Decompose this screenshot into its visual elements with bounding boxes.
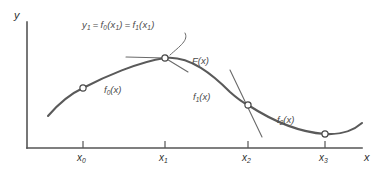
leader-line-node-value [170, 33, 186, 55]
annotation-eq-2: = [123, 19, 133, 30]
node-value-annotation: y1=f0(x1)=f1(x1) [82, 20, 155, 30]
segment-label-f1-sub: 1 [196, 96, 200, 103]
y-axis-label: y [14, 10, 20, 21]
tick-label-x0: x0 [77, 153, 86, 163]
tick-label-x3-sub: 3 [324, 157, 328, 164]
composite-function-label: F(x) [192, 56, 209, 66]
annotation-f1-sub: 1 [135, 24, 139, 31]
segment-label-f2-sub: 2 [280, 119, 284, 126]
tick-label-x1-sub: 1 [164, 157, 168, 164]
annotation-eq-1: = [91, 19, 101, 30]
segment-label-f1: f1(x) [193, 92, 210, 102]
x-axis-ticks [83, 141, 325, 148]
segment-label-f0-arg: (x) [110, 84, 121, 95]
annotation-f0-sub: 0 [103, 24, 107, 31]
annotation-f1-arg-sub: 1 [147, 24, 151, 31]
node-x2-marker [245, 102, 251, 108]
tick-label-x1: x1 [159, 153, 168, 163]
annotation-f0-arg-sub: 1 [115, 24, 119, 31]
tick-label-x3: x3 [319, 153, 328, 163]
segment-label-f2-arg: (x) [283, 114, 294, 125]
spline-interpolation-figure: y x x0 x1 x2 x3 y1=f0(x1)=f1(x1) F(x) f0… [0, 0, 380, 182]
node-x1-marker [162, 55, 168, 61]
segment-label-f0: f0(x) [104, 85, 121, 95]
annotation-y-sub: 1 [87, 24, 91, 31]
annotation-f1-arg-close: ) [151, 19, 154, 30]
segment-label-f1-arg: (x) [199, 91, 210, 102]
tick-label-x2: x2 [242, 153, 251, 163]
segment-label-f2: f2(x) [277, 115, 294, 125]
segment-label-f0-sub: 0 [107, 89, 111, 96]
node-x3-marker [322, 131, 328, 137]
tick-label-x2-sub: 2 [247, 157, 251, 164]
x-axis-label: x [364, 152, 370, 163]
composite-function-arg: (x) [198, 55, 209, 66]
tick-label-x0-sub: 0 [82, 157, 86, 164]
node-x0-marker [80, 85, 86, 91]
